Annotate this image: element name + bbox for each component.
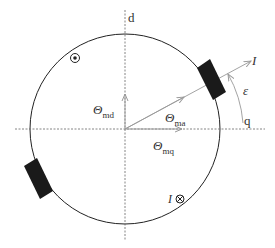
theta-mq-symbol: Θ xyxy=(153,138,162,153)
epsilon-label: ε xyxy=(243,84,248,97)
theta-md-subscript: md xyxy=(102,110,114,120)
theta-mq-label: Θmq xyxy=(153,139,174,156)
pole-piece-upper-right xyxy=(197,59,226,100)
current-into-page-icon xyxy=(176,195,184,203)
current-out-of-page-icon xyxy=(71,54,80,63)
pole-piece-lower-left xyxy=(24,158,53,199)
into-page-current-label: I xyxy=(168,193,172,205)
theta-ma-symbol: Θ xyxy=(165,110,174,125)
d-axis-label: d xyxy=(128,11,135,24)
q-axis-label: q xyxy=(244,114,251,127)
theta-md-symbol: Θ xyxy=(93,102,102,117)
theta-ma-label: Θma xyxy=(165,111,185,128)
theta-mq-subscript: mq xyxy=(162,146,174,156)
theta-md-label: Θmd xyxy=(93,103,114,120)
armature-reaction-diagram xyxy=(0,0,275,248)
theta-ma-subscript: ma xyxy=(174,118,185,128)
current-axis-label: I xyxy=(252,54,256,67)
epsilon-angle-arc xyxy=(228,74,243,123)
